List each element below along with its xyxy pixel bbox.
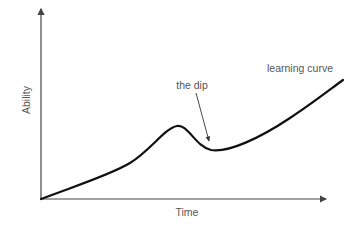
learning-curve-line <box>41 80 343 199</box>
curve-label: learning curve <box>267 62 333 74</box>
x-axis-label: Time <box>176 206 199 218</box>
learning-curve-diagram: the dip learning curve Time Ability <box>0 0 363 229</box>
dip-label: the dip <box>176 79 208 91</box>
y-axis-label: Ability <box>20 85 32 114</box>
dip-arrow <box>196 93 209 141</box>
